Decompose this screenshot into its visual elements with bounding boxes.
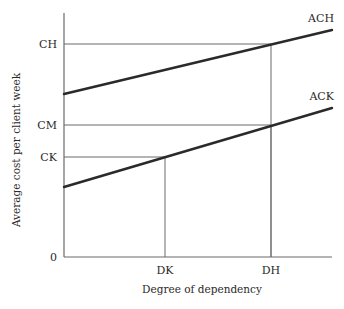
series-line-ack: [64, 108, 332, 187]
cost-dependency-chart: ACHACK CHCMCK0 DKDH Degree of dependency…: [0, 0, 344, 309]
y-axis-label: Average cost per client week: [10, 72, 22, 228]
y-tick-labels: CHCMCK0: [37, 38, 57, 264]
series-line-ach: [64, 30, 332, 94]
x-tick-labels: DKDH: [156, 264, 280, 277]
x-axis-label: Degree of dependency: [142, 283, 262, 295]
x-tick-dk: DK: [156, 264, 174, 277]
y-tick-0: 0: [50, 251, 57, 264]
series-label-ack: ACK: [308, 90, 334, 103]
series-lines: ACHACK: [64, 12, 335, 187]
y-tick-ck: CK: [40, 151, 57, 164]
x-tick-dh: DH: [262, 264, 280, 277]
y-tick-cm: CM: [37, 119, 57, 132]
series-label-ach: ACH: [307, 12, 334, 25]
guide-lines: [64, 44, 271, 257]
axes: [64, 13, 332, 257]
y-tick-ch: CH: [39, 38, 57, 51]
